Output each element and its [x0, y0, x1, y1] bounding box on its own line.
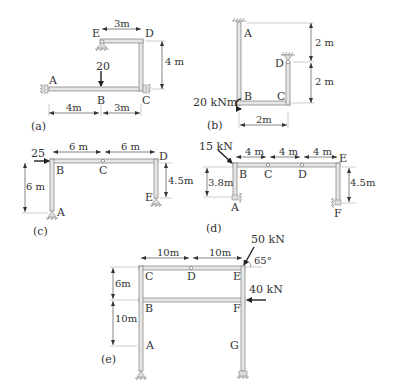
fixed-support-a-icon	[232, 18, 246, 21]
node-label-c: C	[142, 94, 150, 107]
node-label-g: G	[230, 339, 239, 352]
hinge-d-icon	[300, 163, 303, 166]
load-label: 20	[96, 60, 110, 73]
node-label-a: A	[243, 27, 253, 40]
dimension-label-de: 4 m	[313, 146, 333, 157]
figure-c: 25 B C D E A 6 m 6 m 6 m 4.5m (c)	[22, 141, 194, 238]
node-label-b: B	[145, 302, 153, 315]
figure-caption-b: (b)	[207, 119, 223, 132]
figure-b: 20 kNm A B C D 2 m 2 m 2m (b)	[193, 18, 335, 132]
angle-label: 65°	[254, 255, 272, 266]
dimension-label-ab: 10m	[115, 313, 138, 324]
node-label-f: F	[233, 302, 241, 315]
member-de	[154, 159, 158, 198]
dimension-label-de: 10m	[209, 247, 232, 258]
node-label-d: D	[298, 168, 307, 181]
dimension-label-ed: 3m	[114, 18, 130, 29]
member-ed	[100, 39, 143, 43]
hinge-c-icon	[101, 159, 104, 162]
load-label: 25	[31, 147, 45, 160]
figure-d: 15 kN B C D E A F 4 m 4 m 4 m 3.8m 4.5m …	[199, 140, 376, 235]
dimension-label-cd: 10m	[157, 247, 180, 258]
roller-support-c-icon	[143, 84, 151, 94]
node-label-c: C	[145, 270, 153, 283]
figure-caption-a: (a)	[31, 120, 46, 133]
dimension-label-ab: 6 m	[26, 181, 46, 192]
node-label-c: C	[277, 90, 285, 103]
figure-a: 20 A B C D E 3m 4 m 4m 3m (a)	[31, 18, 185, 133]
dimension-label-bc: 2m	[256, 114, 272, 125]
figure-caption-c: (c)	[33, 225, 48, 238]
member-be	[233, 163, 340, 167]
pin-support-a-icon	[135, 371, 147, 380]
node-label-d: D	[159, 150, 168, 163]
node-label-d: D	[187, 270, 196, 283]
node-label-c: C	[99, 164, 107, 177]
dimension-label-bc: 4 m	[245, 146, 265, 157]
member-ab	[50, 159, 54, 211]
node-label-a: A	[48, 74, 58, 87]
node-label-f: F	[334, 207, 342, 220]
member-cd	[286, 62, 290, 105]
member-eg	[241, 266, 245, 371]
load-label-40kn: 40 kN	[249, 283, 283, 296]
load-label: 15 kN	[199, 140, 233, 153]
member-cd	[139, 40, 143, 91]
dimension-label-ab: 3.8m	[208, 177, 234, 188]
dimension-label-bc: 6m	[115, 278, 131, 289]
member-ef	[336, 163, 340, 203]
node-label-b: B	[239, 168, 247, 181]
member-ac	[49, 87, 141, 91]
node-label-e: E	[145, 191, 153, 204]
dimension-label-de: 4.5m	[168, 175, 194, 186]
node-label-c: C	[264, 168, 272, 181]
member-ab	[233, 163, 237, 198]
hinge-c-icon	[266, 163, 269, 166]
dimension-label-top: 2 m	[315, 37, 335, 48]
node-label-a: A	[56, 206, 66, 219]
dimension-label-cd: 6 m	[121, 141, 141, 152]
angle-arc-icon	[248, 261, 251, 267]
node-label-d: D	[275, 57, 284, 70]
figure-caption-d: (d)	[206, 222, 222, 235]
load-label-50kn: 50 kN	[251, 233, 285, 246]
dimension-label-cd: 4 m	[279, 146, 299, 157]
moment-label: 20 kNm	[193, 96, 238, 109]
dimension-label-ab: 4m	[66, 102, 82, 113]
node-label-b: B	[56, 164, 64, 177]
node-label-a: A	[230, 201, 240, 214]
dimension-label-bottom: 2 m	[315, 76, 335, 87]
dimension-label-bc: 3m	[114, 102, 130, 113]
node-label-e: E	[339, 152, 347, 165]
fixed-support-g-icon	[237, 371, 249, 379]
figure-e: 50 kN 65° 40 kN C D E B F A G 10m 10m 6m…	[101, 233, 285, 380]
dimension-label-cd: 4 m	[165, 56, 185, 67]
node-label-d: D	[145, 27, 154, 40]
node-label-e: E	[92, 27, 100, 40]
figure-caption-e: (e)	[101, 353, 116, 366]
dimension-label-ef: 4.5m	[350, 177, 376, 188]
member-ab	[237, 22, 241, 105]
dimension-label-bc: 6 m	[69, 141, 89, 152]
member-ac	[139, 266, 143, 371]
structural-frames-diagram: 20 A B C D E 3m 4 m 4m 3m (a)	[0, 0, 394, 388]
node-label-e: E	[233, 270, 241, 283]
node-label-b: B	[244, 90, 252, 103]
roller-support-a-icon	[40, 84, 48, 94]
node-label-a: A	[145, 339, 155, 352]
member-bf	[139, 298, 245, 302]
